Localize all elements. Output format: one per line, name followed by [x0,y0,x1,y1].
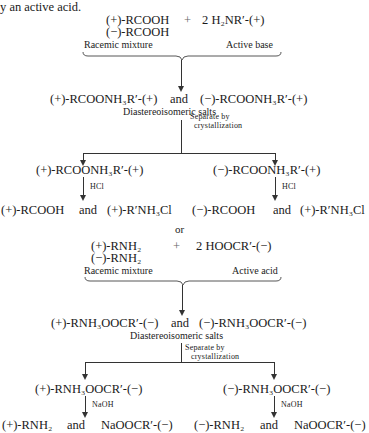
hcl-left-label: HCl [90,182,104,191]
reactant-minus-amine: (−)-RNH₂ [91,251,141,265]
branch-right-salt: (−)-RCOONH₃R′-(+) [213,163,320,177]
plus-sign: + [184,13,191,27]
active-base-label: Active base [226,39,273,51]
and-text: and [170,92,188,106]
salt-plus: (+)-RCOONH₃R′-(+) [50,92,157,106]
and-text: and [171,316,189,330]
branch-left-salt: (+)-RNH₃OOCR′-(−) [35,382,142,396]
diastereoisomeric-salts-label: Diastereoisomeric salts [130,330,223,342]
product-left-acid: (+)-RCOOH [1,203,64,217]
salt-minus: (−)-RNH₃OOCR′-(−) [199,316,306,330]
arrow-down-icon [272,195,278,201]
salt-minus: (−)-RCOONH₃R′-(+) [200,92,307,106]
and-text: and [260,418,278,432]
branch-line [85,362,274,363]
naoh-right-label: NaOH [281,400,303,409]
brace-bracket [84,277,282,287]
intro-text: y an active acid. [0,0,81,14]
separate-by-label: Separate by [190,112,230,121]
product-left-amine: (+)-RNH₂ [2,418,52,432]
product-right-acid: (−)-RCOOH [192,203,255,217]
crystallization-label: crystallization [194,121,242,130]
and-text: and [79,203,97,217]
hcl-left-line [83,177,84,197]
arrow-down-icon [271,374,277,380]
active-acid-label: Active acid [232,265,278,277]
branch-left-salt: (+)-RCOONH₃R′-(+) [36,163,143,177]
active-acid-reagent: 2 HOOCR′-(−) [196,239,271,253]
product-right-amine: (−)-RNH₂ [194,418,244,432]
branch-right-salt: (−)-RNH₃OOCR′-(−) [223,382,330,396]
reactant-minus-acid: (−)-RCOOH [106,25,169,39]
branch-line [83,153,275,154]
separate-line [181,120,182,153]
arrow-down-icon [82,374,88,380]
separate-line [181,343,182,363]
racemic-mixture-label: Racemic mixture [84,265,153,277]
product-right-amine-salt: (+)-R′NH₃Cl [300,203,365,217]
product-left-amine-salt: (+)-R′NH₃Cl [107,203,172,217]
arrow-down-icon [80,195,86,201]
crystallization-label: crystallization [191,352,239,361]
or-separator: or [175,222,184,236]
arrow-to-salts [181,60,182,88]
naoh-left-label: NaOH [92,400,114,409]
and-text: and [273,203,291,217]
racemic-mixture-label: Racemic mixture [84,39,153,51]
hcl-right-line [275,177,276,197]
hcl-right-label: HCl [282,182,296,191]
active-base-reagent: 2 H₂NR′-(+) [202,13,264,27]
plus-sign: + [173,239,180,253]
product-right-sodium-salt: NaOOCR′-(−) [294,418,366,432]
product-left-sodium-salt: NaOOCR′-(−) [101,418,173,432]
arrow-to-salts [182,285,183,313]
separate-by-label: Separate by [185,343,225,352]
brace-bracket [82,52,282,62]
and-text: and [67,418,85,432]
salt-plus: (+)-RNH₃OOCR′-(−) [51,316,158,330]
